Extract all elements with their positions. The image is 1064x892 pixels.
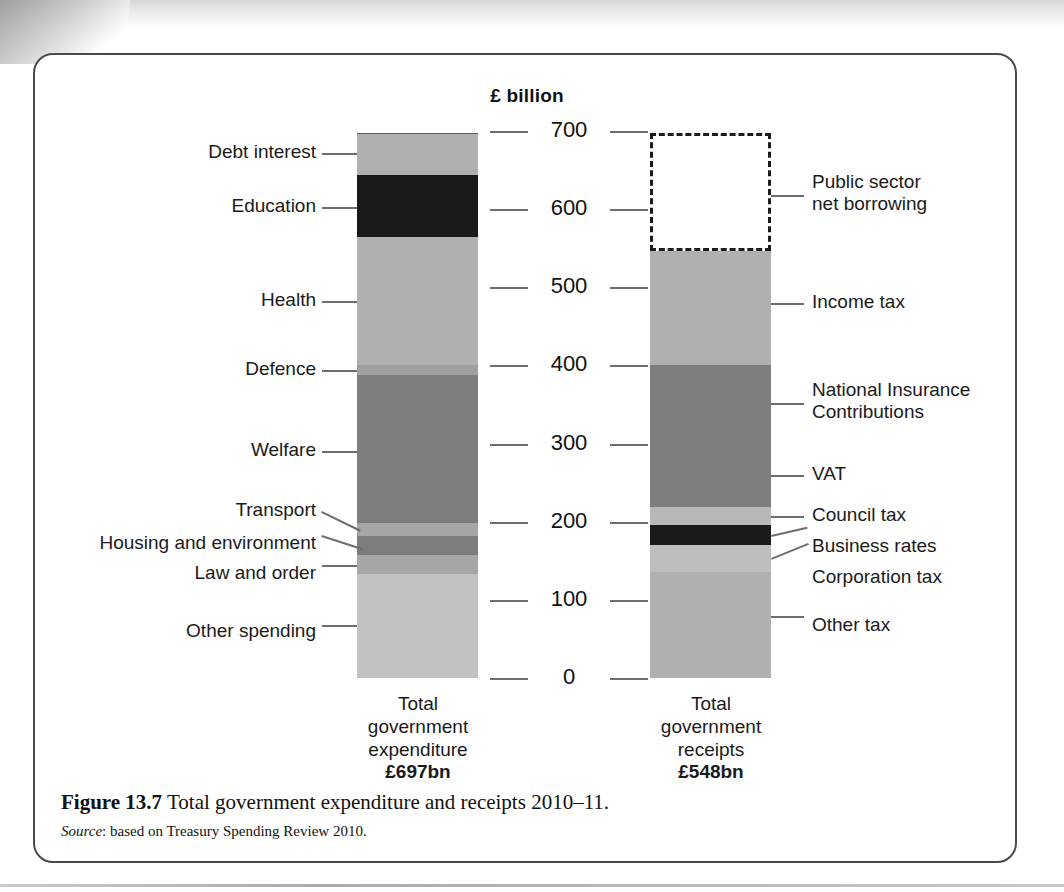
caption-expenditure-line2: government — [308, 716, 528, 739]
label-welfare: Welfare — [251, 439, 316, 461]
label-nic-line2: Contributions — [812, 401, 924, 422]
axis-tick-left-100 — [490, 600, 528, 602]
label-public-sector-net-borrowing: Public sector net borrowing — [812, 171, 927, 216]
leader-public-sector-net-borrowing — [771, 195, 804, 197]
segment-vat — [650, 441, 771, 507]
label-transport: Transport — [235, 499, 316, 521]
caption-expenditure-line3: expenditure — [308, 739, 528, 762]
figure-caption-text: Total government expenditure and receipt… — [167, 790, 609, 814]
leader-health — [322, 301, 357, 303]
segment-health — [357, 237, 478, 365]
leader-education — [322, 207, 357, 209]
segment-defence — [357, 365, 478, 375]
leader-income-tax — [771, 303, 804, 305]
label-council-tax: Council tax — [812, 504, 906, 526]
axis-tick-right-300 — [610, 444, 648, 446]
caption-receipts-line1: Total — [601, 693, 821, 716]
figure-caption: Figure 13.7 Total government expenditure… — [61, 790, 991, 815]
label-law-and-order: Law and order — [195, 562, 316, 584]
label-housing-and-environment: Housing and environment — [99, 532, 316, 554]
axis-label-300: 300 — [528, 430, 610, 456]
axis-tick-right-200 — [610, 522, 648, 524]
axis-tick-left-600 — [490, 209, 528, 211]
label-other-spending: Other spending — [186, 620, 316, 642]
leader-corporation-tax — [771, 543, 809, 560]
leader-welfare — [322, 451, 357, 453]
caption-receipts-line3: receipts — [601, 739, 821, 762]
page-bottom-rule — [0, 884, 1064, 887]
label-national-insurance-contributions: National Insurance Contributions — [812, 379, 970, 424]
axis-tick-left-300 — [490, 444, 528, 446]
label-public-sector-line1: Public sector — [812, 171, 921, 192]
label-vat: VAT — [812, 463, 846, 485]
label-defence: Defence — [245, 358, 316, 380]
leader-vat — [771, 475, 804, 477]
caption-receipts-line2: government — [601, 716, 821, 739]
axis-tick-left-400 — [490, 365, 528, 367]
axis-tick-right-0 — [610, 678, 648, 680]
axis-tick-right-700 — [610, 131, 648, 133]
segment-corporation-tax — [650, 545, 771, 572]
axis-tick-left-500 — [490, 287, 528, 289]
segment-council-tax — [650, 507, 771, 525]
axis-tick-left-200 — [490, 522, 528, 524]
axis-tick-right-500 — [610, 287, 648, 289]
segment-income-tax — [650, 251, 771, 365]
caption-expenditure-line1: Total — [308, 693, 528, 716]
axis-tick-left-700 — [490, 131, 528, 133]
leader-business-rates — [771, 527, 808, 537]
segment-public-sector-net-borrowing — [650, 133, 771, 251]
label-nic-line1: National Insurance — [812, 379, 970, 400]
caption-expenditure: Total government expenditure £697bn — [308, 693, 528, 784]
leader-national-insurance-contributions — [771, 403, 804, 405]
caption-receipts-total: £548bn — [678, 761, 743, 782]
segment-transport — [357, 523, 478, 536]
axis-tick-right-600 — [610, 209, 648, 211]
axis-label-400: 400 — [528, 351, 610, 377]
label-corporation-tax: Corporation tax — [812, 566, 942, 588]
axis-label-0: 0 — [528, 664, 610, 690]
scan-edge-artifact — [0, 0, 1064, 30]
figure-number: Figure 13.7 — [61, 790, 162, 814]
segment-other-tax — [650, 572, 771, 678]
plot-area: 700 600 500 400 300 200 100 0 — [35, 55, 1019, 865]
figure-source-word: Source — [61, 823, 102, 839]
segment-welfare — [357, 375, 478, 523]
leader-transport — [321, 511, 361, 532]
label-income-tax: Income tax — [812, 291, 905, 313]
segment-business-rates — [650, 525, 771, 545]
label-public-sector-line2: net borrowing — [812, 193, 927, 214]
segment-law-and-order — [357, 555, 478, 574]
caption-expenditure-total: £697bn — [385, 761, 450, 782]
leader-council-tax — [771, 516, 804, 518]
segment-debt-interest — [357, 133, 478, 175]
segment-education — [357, 175, 478, 237]
axis-label-700: 700 — [528, 117, 610, 143]
label-health: Health — [261, 289, 316, 311]
axis-label-600: 600 — [528, 195, 610, 221]
leader-defence — [322, 370, 357, 372]
axis-label-200: 200 — [528, 508, 610, 534]
leader-other-tax — [771, 616, 804, 618]
axis-tick-right-100 — [610, 600, 648, 602]
figure-card: £ billion 700 600 500 400 300 200 100 — [33, 53, 1017, 863]
leader-debt-interest — [322, 153, 357, 155]
label-other-tax: Other tax — [812, 614, 890, 636]
segment-other-spending — [357, 574, 478, 678]
axis-label-100: 100 — [528, 586, 610, 612]
caption-receipts: Total government receipts £548bn — [601, 693, 821, 784]
segment-housing-and-environment — [357, 536, 478, 555]
segment-national-insurance-contributions — [650, 365, 771, 441]
label-debt-interest: Debt interest — [208, 141, 316, 163]
figure-source-text: : based on Treasury Spending Review 2010… — [102, 823, 367, 839]
label-business-rates: Business rates — [812, 535, 937, 557]
axis-tick-right-400 — [610, 365, 648, 367]
leader-other-spending — [322, 625, 357, 627]
label-education: Education — [231, 195, 316, 217]
leader-law-and-order — [322, 565, 357, 567]
axis-tick-left-0 — [490, 678, 528, 680]
figure-source: Source: based on Treasury Spending Revie… — [61, 823, 991, 840]
axis-label-500: 500 — [528, 273, 610, 299]
